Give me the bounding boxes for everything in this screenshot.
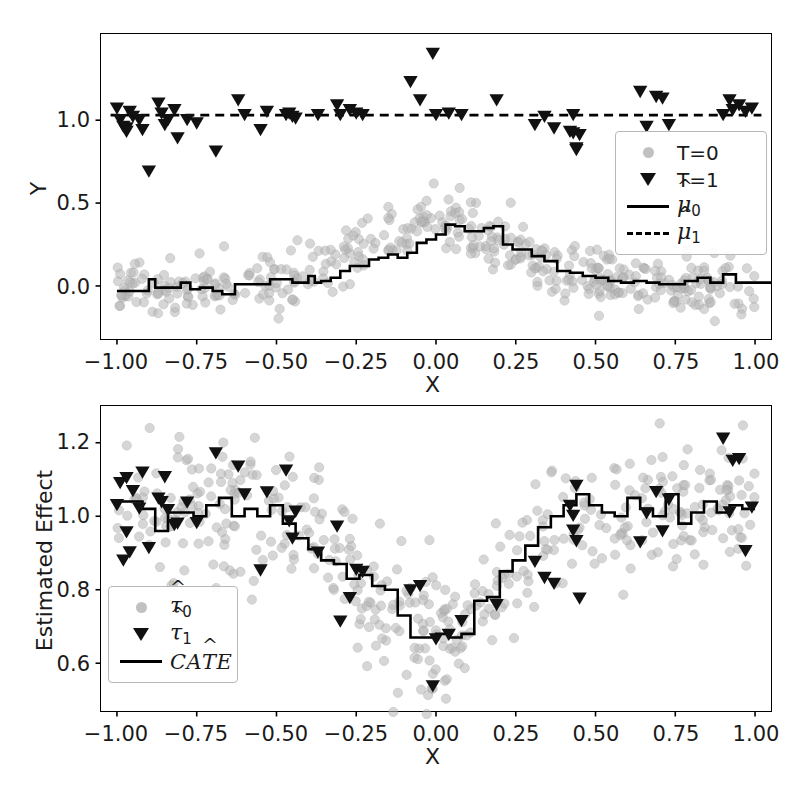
bottom-xtick-label: −0.50 (244, 722, 308, 746)
top-xtick-label: 0.25 (493, 350, 540, 374)
top-plot-ylabel: Y (26, 169, 51, 209)
top-xtick-label: 0.50 (573, 350, 620, 374)
bottom-plot-legend[interactable]: ^τ0 ^τ1 CA^TE (108, 586, 238, 683)
bottom-plot-xlabel: X (425, 744, 440, 769)
legend-label-cate: CA^TE (164, 650, 232, 674)
legend-item-mu1[interactable]: ^μ1 (625, 220, 755, 247)
figure-canvas: −1.00−0.75−0.50−0.250.000.250.500.751.00… (0, 0, 801, 797)
bottom-xtick-label: 1.00 (733, 722, 780, 746)
bottom-xtick-label: 0.75 (653, 722, 700, 746)
triangle-down-icon (625, 173, 671, 186)
triangle-down-icon (118, 628, 164, 641)
bottom-xtick-label: 0.25 (493, 722, 540, 746)
top-plot-legend[interactable]: T=0 T=1 ^μ0 ^μ1 (615, 131, 767, 255)
legend-label-tau1: ^τ1 (164, 620, 192, 648)
top-xtick-label: −0.75 (164, 350, 228, 374)
bottom-xtick-label: −0.25 (324, 722, 388, 746)
bottom-xtick-label: 0.00 (413, 722, 460, 746)
top-xtick-label: 1.00 (733, 350, 780, 374)
bottom-xtick-label: −1.00 (84, 722, 148, 746)
top-xtick-label: 0.75 (653, 350, 700, 374)
legend-item-cate[interactable]: CA^TE (118, 648, 226, 675)
top-xtick-label: −1.00 (84, 350, 148, 374)
top-xtick-label: 0.00 (413, 350, 460, 374)
top-ytick-label: 0.0 (40, 275, 90, 299)
bottom-xtick-label: −0.75 (164, 722, 228, 746)
legend-label-mu1: ^μ1 (671, 219, 701, 247)
top-xtick-label: −0.25 (324, 350, 388, 374)
bottom-xtick-label: 0.50 (573, 722, 620, 746)
top-xtick-label: −0.50 (244, 350, 308, 374)
solid-line-icon (118, 660, 164, 663)
legend-label-t0: T=0 (671, 141, 719, 165)
scatter-circle-icon (625, 147, 671, 158)
bottom-ytick-label: 1.2 (40, 430, 90, 454)
solid-line-icon (625, 205, 671, 208)
bottom-plot-ylabel: Estimated Effect (32, 461, 57, 661)
scatter-circle-icon (118, 602, 164, 613)
top-ytick-label: 1.0 (40, 108, 90, 132)
dashed-line-icon (625, 232, 671, 235)
legend-item-t0[interactable]: T=0 (625, 139, 755, 166)
top-plot-xlabel: X (425, 372, 440, 397)
